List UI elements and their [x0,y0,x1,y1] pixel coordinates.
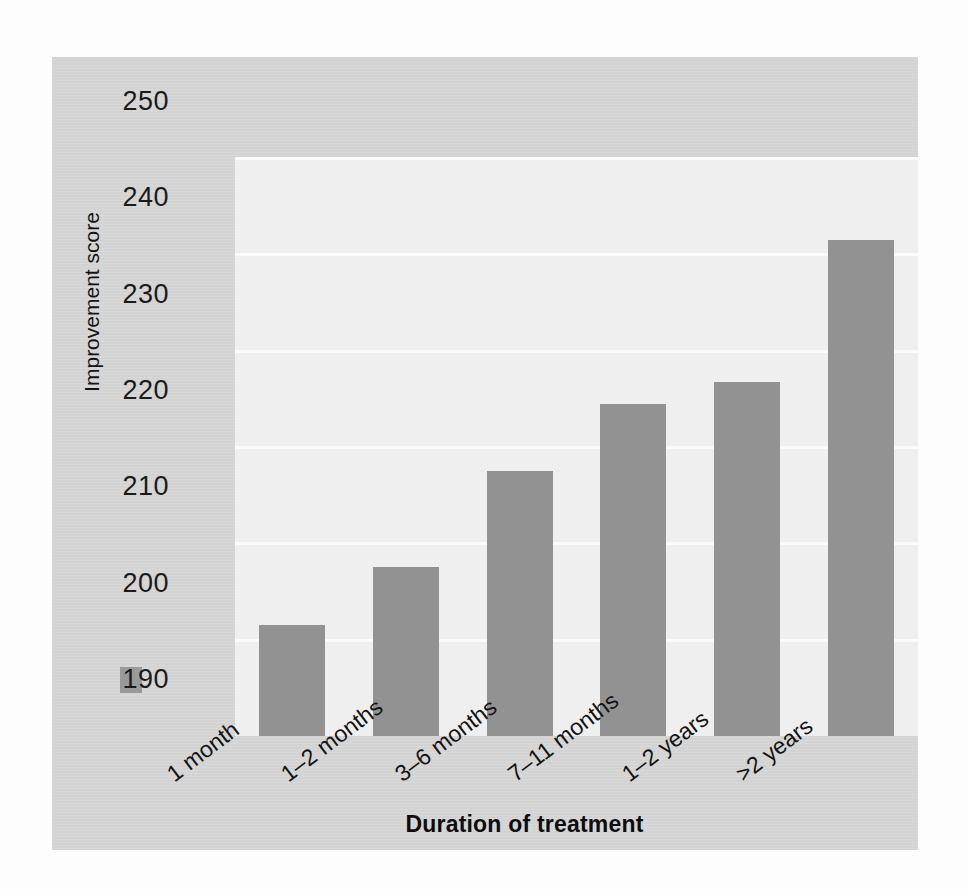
y-tick-label: 250 [122,86,169,117]
y-axis-title: Improvement score [80,182,104,422]
bar-slot [577,158,691,736]
y-tick-label: 220 [122,375,169,406]
bar-slot [804,158,918,736]
x-label-slot: 1–2 years [638,679,752,809]
y-tick-label: 190 [122,664,169,695]
x-label-slot: >2 years [752,679,866,809]
x-axis-title: Duration of treatment [183,811,866,838]
y-tick-label: 210 [122,471,169,502]
y-tick-label: 240 [122,182,169,213]
bar-slot [349,158,463,736]
figure-root: 250240230220210200190 Improvement score … [0,0,968,889]
bars-layer [235,158,918,736]
y-tick-label: 230 [122,278,169,309]
y-axis-ticks: 250240230220210200190 [52,101,183,679]
x-label-slot: 1–2 months [297,679,411,809]
plot-area [235,158,918,736]
bar-slot [463,158,577,736]
bar[interactable] [828,240,894,736]
x-label-slot: 7–11 months [525,679,639,809]
x-label-slot: 1 month [183,679,297,809]
x-axis-ticks: 1 month1–2 months3–6 months7–11 months1–… [183,679,866,809]
x-label-slot: 3–6 months [411,679,525,809]
bar-slot [690,158,804,736]
y-tick-label: 200 [122,567,169,598]
bar-slot [235,158,349,736]
